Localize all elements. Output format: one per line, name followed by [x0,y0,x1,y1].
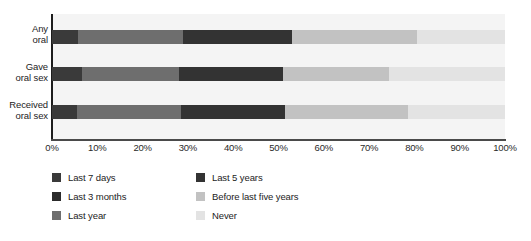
x-axis-line [51,139,506,141]
table-row [52,30,505,44]
x-axis-tick-label: 70% [360,142,378,153]
bar-segment [77,105,181,119]
legend-item[interactable]: Never [196,206,386,225]
table-row [52,105,505,119]
legend-item[interactable]: Before last five years [196,187,386,206]
legend-item-label: Last 3 months [68,191,126,202]
plot-area [52,14,505,139]
legend-swatch-icon [52,211,61,220]
legend-swatch-icon [52,173,61,182]
table-row [52,67,505,81]
legend-swatch-icon [196,192,205,201]
category-label-line-2: oral sex [0,73,48,84]
bar-segment [283,67,389,81]
category-label-line-1: Any [0,24,48,35]
legend-item-label: Never [212,210,237,221]
category-label-line-1: Gave [0,62,48,73]
category-label-line-2: oral [0,35,48,46]
x-axis-tick-label: 90% [450,142,468,153]
bar-segment [285,105,407,119]
x-axis-tick-label: 40% [224,142,242,153]
x-axis-tick-label: 0% [45,142,58,153]
legend-item-label: Last 5 years [212,172,263,183]
bar-segment [292,30,417,44]
legend-swatch-icon [196,211,205,220]
category-label-line-1: Received [0,100,48,111]
x-axis-tick-label: 80% [405,142,423,153]
legend-swatch-icon [196,173,205,182]
x-axis-tick-label: 100% [493,142,517,153]
bar-segment [52,30,78,44]
bar-segment [52,67,82,81]
x-axis-tick-label: 10% [88,142,106,153]
bar-segment [52,105,77,119]
bar-segment [408,105,505,119]
category-label-line-2: oral sex [0,111,48,122]
legend-item[interactable]: Last 5 years [196,168,386,187]
bar-segment [389,67,505,81]
bar-segment [183,30,292,44]
bar-segment [78,30,184,44]
legend-column-right: Last 5 yearsBefore last five yearsNever [196,168,386,225]
bar-segment [179,67,283,81]
bar-segment [181,105,285,119]
category-label-received-oral-sex: Received oral sex [0,100,48,121]
x-axis-tick-label: 60% [315,142,333,153]
category-label-any-oral: Any oral [0,24,48,45]
legend: Last 7 daysLast 3 monthsLast year Last 5… [52,168,472,228]
x-axis-tick-label: 30% [179,142,197,153]
legend-swatch-icon [52,192,61,201]
stacked-bar-chart: Any oral Gave oral sex Received oral sex… [0,0,531,241]
bar-segment [417,30,505,44]
legend-item-label: Last 7 days [68,172,116,183]
x-axis-tick-label: 20% [133,142,151,153]
x-axis-tick-label: 50% [269,142,287,153]
legend-item-label: Before last five years [212,191,299,202]
bar-segment [82,67,179,81]
category-label-gave-oral-sex: Gave oral sex [0,62,48,83]
legend-item-label: Last year [68,210,106,221]
